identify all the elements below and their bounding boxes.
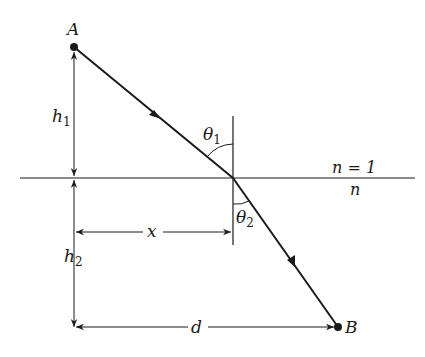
theta2-arc <box>233 201 249 204</box>
refracted-ray <box>233 178 338 327</box>
label-theta2: θ2 <box>236 207 254 230</box>
label-upper-medium: n = 1 <box>332 158 376 177</box>
point-b <box>334 323 342 331</box>
label-h1: h1 <box>52 106 71 129</box>
label-a: A <box>65 19 79 39</box>
label-h2: h2 <box>64 246 83 269</box>
label-d: d <box>191 317 202 337</box>
point-a <box>70 43 78 51</box>
label-lower-medium: n <box>350 180 360 199</box>
label-b: B <box>344 317 358 337</box>
label-theta1: θ1 <box>203 124 221 147</box>
refraction-diagram: A B h1 h2 θ1 θ2 x d n = 1 n <box>0 0 425 357</box>
label-x: x <box>147 221 157 241</box>
